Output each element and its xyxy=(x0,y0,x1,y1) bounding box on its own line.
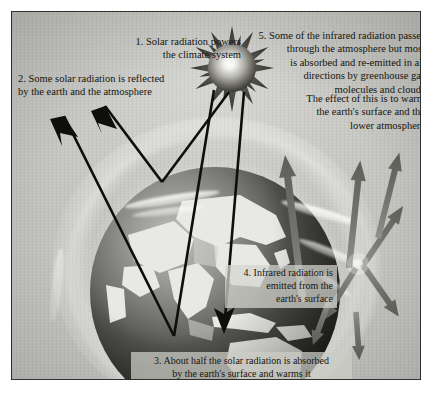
annotation-5: 5. Some of the infrared radiation passes… xyxy=(222,29,421,96)
annotation-5-effect-line-3: lower atmosphere xyxy=(247,119,421,132)
annotation-3: 3. About half the solar radiation is abs… xyxy=(131,352,352,380)
annotation-1-line-1: 1. Solar radiation powers xyxy=(56,35,241,48)
annotation-5-line-4: directions by greenhouse gas xyxy=(222,69,421,82)
annotation-4-line-1: 4. Infrared radiation is xyxy=(229,267,333,280)
figure-frame: 1. Solar radiation powers the climate sy… xyxy=(11,11,421,380)
annotation-1-line-2: the climate system xyxy=(56,48,241,61)
annotation-3-line-1: 3. About half the solar radiation is abs… xyxy=(135,355,348,368)
annotation-5-line-2: through the atmosphere but most xyxy=(222,42,421,55)
annotation-5-line-1: 5. Some of the infrared radiation passes xyxy=(222,29,421,42)
annotation-4-line-3: earth's surface xyxy=(229,293,333,306)
figure-canvas: 1. Solar radiation powers the climate sy… xyxy=(0,0,434,393)
annotation-2-line-1: 2. Some solar radiation is reflected xyxy=(18,72,233,85)
annotation-4: 4. Infrared radiation is emitted from th… xyxy=(225,265,337,308)
annotation-3-line-2: by the earth's surface and warms it xyxy=(135,368,348,380)
annotation-5-effect: The effect of this is to warm the earth'… xyxy=(247,92,421,132)
annotation-5-line-3: is absorbed and re-emitted in all xyxy=(222,56,421,69)
annotation-5-effect-line-1: The effect of this is to warm xyxy=(247,92,421,105)
annotation-2: 2. Some solar radiation is reflected by … xyxy=(18,72,233,99)
annotation-1: 1. Solar radiation powers the climate sy… xyxy=(56,35,241,62)
annotation-2-line-2: by the earth and the atmosphere xyxy=(18,85,233,98)
annotation-4-line-2: emitted from the xyxy=(229,280,333,293)
annotation-5-effect-line-2: the earth's surface and the xyxy=(247,105,421,118)
